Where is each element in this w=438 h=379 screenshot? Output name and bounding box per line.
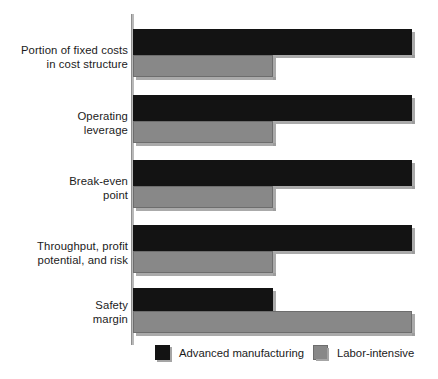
category-label-operating-leverage: Operating leverage [0,110,128,137]
legend-label-labor-intensive: Labor-intensive [337,347,414,359]
bar-advanced-manufacturing-throughput-profit-potential-risk [133,225,412,251]
chart-legend: Advanced manufacturing Labor-intensive [0,345,438,369]
legend-item-labor-intensive: Labor-intensive [313,345,414,360]
legend-swatch-labor-intensive [313,345,328,360]
category-label-break-even-point: Break-even point [0,175,128,202]
bar-labor-intensive-break-even-point [133,186,273,208]
legend-item-advanced-manufacturing: Advanced manufacturing [155,345,304,360]
bar-chart-figure: Portion of fixed costs in cost structure… [0,0,438,379]
category-label-throughput-profit-potential-risk: Throughput, profit potential, and risk [0,240,128,267]
category-label-safety-margin: Safety margin [0,299,128,326]
bar-labor-intensive-portion-of-fixed-costs [133,55,273,77]
legend-label-advanced-manufacturing: Advanced manufacturing [179,347,304,359]
bar-labor-intensive-operating-leverage [133,121,273,143]
bar-labor-intensive-safety-margin [133,311,412,333]
bar-labor-intensive-throughput-profit-potential-risk [133,251,273,273]
bar-advanced-manufacturing-operating-leverage [133,95,412,121]
bar-advanced-manufacturing-break-even-point [133,160,412,186]
bar-advanced-manufacturing-portion-of-fixed-costs [133,29,412,55]
legend-swatch-advanced-manufacturing [155,345,170,360]
category-label-portion-of-fixed-costs: Portion of fixed costs in cost structure [0,44,128,71]
